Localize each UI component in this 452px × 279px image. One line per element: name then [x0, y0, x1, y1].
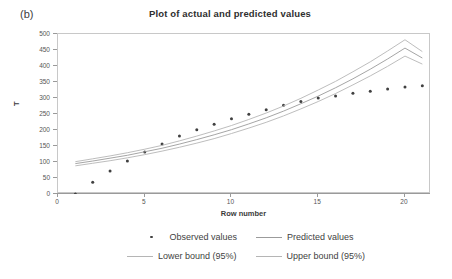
x-tick-label: 5	[134, 198, 154, 205]
data-point	[195, 128, 198, 131]
data-point	[265, 108, 268, 111]
data-point	[230, 117, 233, 120]
data-point	[334, 95, 337, 98]
y-tick-label: 500	[24, 30, 50, 37]
y-tick-label: 250	[24, 110, 50, 117]
y-tick-label: 300	[24, 94, 50, 101]
y-tick-label: 450	[24, 46, 50, 53]
y-axis-title: T	[12, 101, 21, 106]
data-point	[421, 84, 424, 87]
plot-svg	[58, 34, 431, 194]
data-point	[351, 92, 354, 95]
data-point	[91, 181, 94, 184]
data-point	[403, 86, 406, 89]
legend-entry[interactable]: Upper bound (95%)	[251, 251, 366, 261]
data-point	[386, 88, 389, 91]
legend-dot-icon	[133, 236, 169, 239]
legend-line-icon	[251, 237, 287, 238]
series-line	[75, 40, 422, 162]
series-line	[75, 48, 422, 164]
series-line	[75, 56, 422, 166]
legend-entry[interactable]: Predicted values	[251, 232, 354, 242]
line-icon	[256, 256, 282, 257]
legend-entry[interactable]: Observed values	[133, 232, 237, 242]
data-point	[247, 113, 250, 116]
legend-label: Upper bound (95%)	[287, 251, 366, 261]
legend-row: Lower bound (95%)Upper bound (95%)	[122, 251, 365, 261]
y-tick-label: 200	[24, 126, 50, 133]
data-point	[213, 123, 216, 126]
legend-line-icon	[122, 256, 158, 257]
line-icon	[256, 237, 282, 238]
data-point	[74, 193, 77, 195]
legend-label: Lower bound (95%)	[158, 251, 237, 261]
legend-entry[interactable]: Lower bound (95%)	[122, 251, 237, 261]
y-tick-label: 50	[24, 174, 50, 181]
data-point	[369, 90, 372, 93]
data-point	[178, 135, 181, 138]
x-axis-title: Row number	[57, 209, 430, 218]
chart-title: Plot of actual and predicted values	[105, 8, 355, 19]
chart-legend: Observed valuesPredicted valuesLower bou…	[57, 232, 430, 261]
legend-line-icon	[251, 256, 287, 257]
legend-row: Observed valuesPredicted values	[133, 232, 353, 242]
legend-label: Predicted values	[287, 232, 354, 242]
legend-label: Observed values	[169, 232, 237, 242]
y-tick-label: 400	[24, 62, 50, 69]
x-tick-label: 10	[220, 198, 240, 205]
panel-label: (b)	[20, 8, 33, 20]
y-tick-label: 0	[24, 190, 50, 197]
y-tick-label: 350	[24, 78, 50, 85]
plot-area	[57, 33, 430, 193]
data-point	[126, 160, 129, 163]
y-tick-label: 100	[24, 158, 50, 165]
x-tick-label: 15	[307, 198, 327, 205]
dot-icon	[150, 236, 153, 239]
data-point	[109, 169, 112, 172]
data-point	[299, 100, 302, 103]
y-tick-label: 150	[24, 142, 50, 149]
x-tick-label: 20	[394, 198, 414, 205]
line-icon	[127, 256, 153, 257]
figure-container: (b) Plot of actual and predicted values …	[0, 0, 452, 279]
x-tick-label: 0	[47, 198, 67, 205]
